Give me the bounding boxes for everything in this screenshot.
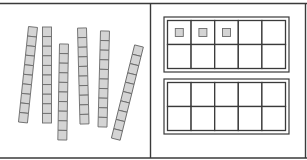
ten-frame-cell <box>262 107 286 131</box>
unit-cube <box>100 50 109 60</box>
unit-cube <box>98 117 107 127</box>
place-value-diagram <box>0 0 307 160</box>
unit-cube <box>99 69 108 79</box>
tens-rod <box>43 27 52 123</box>
tens-rod <box>111 45 143 140</box>
ten-frame-cell <box>238 107 262 131</box>
unit-cube <box>59 73 68 83</box>
unit-cube <box>43 85 52 95</box>
unit-cube <box>28 27 38 37</box>
ten-frame <box>164 79 289 134</box>
unit-cube <box>43 75 52 85</box>
tens-rod <box>18 27 37 123</box>
unit-cube <box>59 82 68 92</box>
ten-frame-cell <box>215 45 239 69</box>
unit-cube <box>43 27 52 37</box>
ten-frame-cell <box>238 83 262 107</box>
unit-cube <box>59 54 68 64</box>
ten-frame-cell <box>215 107 239 131</box>
unit-cube <box>98 98 107 108</box>
unit-cube <box>27 36 37 46</box>
ones-panel <box>164 17 289 134</box>
unit-cube <box>199 29 207 37</box>
unit-cube <box>43 65 52 75</box>
unit-cube <box>43 56 52 66</box>
tens-panel <box>18 27 143 141</box>
unit-cube <box>19 103 29 113</box>
unit-cube <box>223 29 231 37</box>
unit-cube <box>99 79 108 89</box>
tens-rod <box>78 28 90 124</box>
unit-cube <box>58 130 67 140</box>
unit-cube <box>43 113 52 123</box>
unit-cube <box>78 47 87 57</box>
unit-cube <box>79 95 88 105</box>
unit-cube <box>18 112 28 122</box>
tens-rod <box>58 44 69 140</box>
unit-cube <box>100 31 109 41</box>
ten-frame-cell <box>168 83 192 107</box>
unit-cube <box>99 60 108 70</box>
ten-frame-cell <box>262 83 286 107</box>
ten-frame-cell <box>191 83 215 107</box>
unit-cube <box>58 102 67 112</box>
unit-cube <box>20 93 30 103</box>
tens-rod <box>98 31 110 127</box>
unit-cube <box>78 37 87 47</box>
ten-frame-cell <box>191 45 215 69</box>
ten-frame-cell <box>238 21 262 45</box>
unit-cube <box>43 37 52 47</box>
ten-frame-cell <box>262 21 286 45</box>
unit-cube <box>43 104 52 114</box>
unit-cube <box>98 108 107 118</box>
unit-cube <box>175 29 183 37</box>
ten-frame-cell <box>168 107 192 131</box>
unit-cube <box>79 66 88 76</box>
unit-cube <box>26 46 36 56</box>
unit-cube <box>78 57 87 67</box>
unit-cube <box>22 84 32 94</box>
unit-cube <box>25 55 35 65</box>
ten-frame <box>164 17 289 72</box>
unit-cube <box>43 94 52 104</box>
unit-cube <box>58 121 67 131</box>
unit-cube <box>111 129 122 140</box>
unit-cube <box>78 28 87 38</box>
unit-cube <box>59 63 68 73</box>
unit-cube <box>80 114 89 124</box>
ten-frame-cell <box>191 107 215 131</box>
ten-frame-cell <box>238 45 262 69</box>
unit-cube <box>59 44 68 54</box>
unit-cube <box>43 46 52 56</box>
unit-cube <box>23 74 33 84</box>
unit-cube <box>58 92 67 102</box>
ten-frame-cell <box>168 45 192 69</box>
unit-cube <box>79 85 88 95</box>
unit-cube <box>24 65 34 75</box>
unit-cube <box>79 76 88 86</box>
unit-cube <box>80 105 89 115</box>
unit-cube <box>100 40 109 50</box>
unit-cube <box>99 88 108 98</box>
ten-frame-cell <box>262 45 286 69</box>
unit-cube <box>58 111 67 121</box>
ten-frame-cell <box>215 83 239 107</box>
